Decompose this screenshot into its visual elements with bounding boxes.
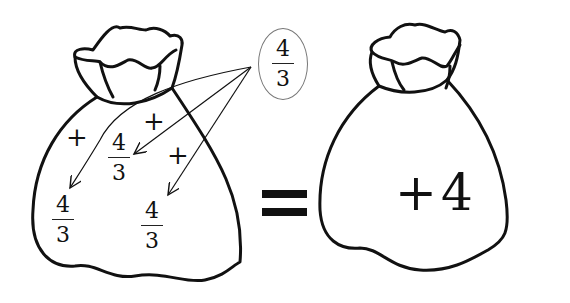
numerator: 4: [112, 132, 126, 154]
right-bag-icon: [320, 24, 507, 270]
fraction-bar: [272, 63, 294, 64]
plus-sign-1: +: [66, 124, 88, 150]
denominator: 3: [56, 224, 70, 246]
fraction-2: 4 3: [108, 132, 130, 184]
value: 4: [441, 164, 473, 222]
source-fraction-bubble: 4 3: [258, 28, 308, 100]
fraction-bar: [141, 225, 163, 226]
diagram: 4 3 + + + 4 3 4 3 4 3 +4: [0, 0, 570, 303]
plus-sign: +: [395, 164, 437, 222]
plus-sign-3: +: [167, 142, 189, 168]
numerator: 4: [276, 38, 290, 60]
plus-sign-2: +: [143, 108, 165, 134]
fraction-1: 4 3: [52, 194, 74, 246]
equals-sign: [262, 190, 307, 226]
denominator: 3: [276, 68, 290, 90]
equals-bar-top: [262, 190, 307, 198]
equals-bar-bottom: [262, 208, 307, 216]
right-bag-value: +4: [395, 168, 473, 218]
denominator: 3: [112, 162, 126, 184]
fraction-bar: [108, 157, 130, 158]
fraction-bar: [52, 219, 74, 220]
fraction-3: 4 3: [141, 200, 163, 252]
denominator: 3: [145, 230, 159, 252]
numerator: 4: [56, 194, 70, 216]
source-fraction: 4 3: [272, 38, 294, 90]
numerator: 4: [145, 200, 159, 222]
